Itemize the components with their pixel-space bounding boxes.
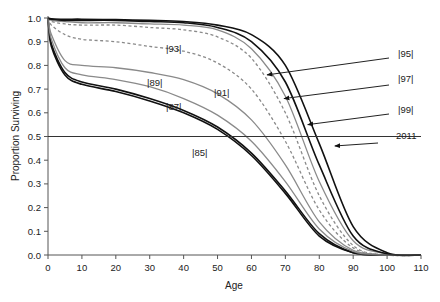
axes <box>48 16 421 255</box>
x-tick-label: 110 <box>413 262 428 273</box>
y-tick-label: 0.2 <box>28 202 41 213</box>
x-tick-label: 20 <box>111 262 122 273</box>
x-tick-label: 40 <box>178 262 189 273</box>
x-tick-label: 100 <box>379 262 395 273</box>
tick-labels: 01020304050607080901001100.00.10.20.30.4… <box>28 13 429 274</box>
annotation-label: |91| <box>214 87 230 98</box>
y-tick-label: 1.0 <box>28 13 41 24</box>
annotation-label: |89| <box>147 77 163 88</box>
annotation-label: |95| <box>398 48 414 59</box>
x-tick-label: 10 <box>77 262 88 273</box>
y-tick-label: 0.6 <box>28 107 41 118</box>
annotation-label: |85| <box>192 147 208 158</box>
annotation-label: 2011 <box>396 130 416 141</box>
y-tick-label: 0.9 <box>28 36 41 47</box>
annotation-arrow <box>308 114 389 125</box>
y-tick-label: 0.8 <box>28 60 41 71</box>
x-tick-label: 60 <box>246 262 257 273</box>
annotation-label: |99| <box>398 104 414 115</box>
annotation-arrow <box>284 85 389 99</box>
annotation-label: |97| <box>398 73 414 84</box>
annotation-arrow <box>335 143 378 146</box>
x-tick-label: 70 <box>280 262 291 273</box>
y-tick-label: 0.5 <box>28 131 41 142</box>
y-tick-label: 0.1 <box>28 226 41 237</box>
survival-chart: 01020304050607080901001100.00.10.20.30.4… <box>0 0 440 302</box>
annotation-label: |87| <box>166 101 182 112</box>
y-tick-label: 0.3 <box>28 178 41 189</box>
y-axis-label: Proportion Surviving <box>10 91 21 181</box>
x-tick-label: 0 <box>45 262 50 273</box>
annotation-label: |93| <box>166 43 182 54</box>
y-tick-label: 0.0 <box>28 250 41 261</box>
y-tick-label: 0.7 <box>28 84 41 95</box>
x-tick-label: 90 <box>348 262 359 273</box>
x-tick-label: 50 <box>212 262 223 273</box>
x-tick-label: 30 <box>144 262 155 273</box>
x-axis-label: Age <box>225 280 243 291</box>
y-tick-label: 0.4 <box>28 155 41 166</box>
x-tick-label: 80 <box>314 262 325 273</box>
